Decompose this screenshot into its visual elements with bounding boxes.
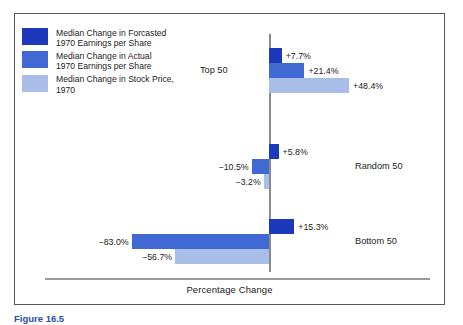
bar-value-label: −3.2%	[236, 177, 265, 187]
bar-row: −3.2%	[15, 174, 444, 189]
bar-median-change-in-a	[252, 159, 269, 174]
bar-row: +7.7%	[15, 48, 444, 63]
bar-median-change-in-s	[269, 78, 349, 93]
bar-row: +15.3%	[15, 219, 444, 234]
chart-plot-area: Median Change in Forcasted 1970 Earnings…	[15, 14, 444, 304]
bar-row: +5.8%	[15, 144, 444, 159]
bar-value-label: −56.7%	[142, 252, 176, 262]
figure-frame: Median Change in Forcasted 1970 Earnings…	[14, 13, 445, 305]
bar-value-label: −10.5%	[219, 162, 253, 172]
bar-group-bottom-50: +15.3%−83.0%−56.7%Bottom 50	[15, 219, 444, 264]
legend-swatch-forecasted-eps	[22, 28, 48, 45]
bar-group-random-50: +5.8%−10.5%−3.2%Random 50	[15, 144, 444, 189]
bar-median-change-in-s	[175, 249, 269, 264]
group-label-bottom-50: Bottom 50	[355, 236, 397, 246]
legend-label-forecasted-eps: Median Change in Forcasted 1970 Earnings…	[56, 27, 166, 48]
bar-median-change-in-a	[132, 234, 269, 249]
bar-median-change-in-f	[269, 144, 279, 159]
bar-value-label: −83.0%	[99, 237, 133, 247]
bar-row: −56.7%	[15, 249, 444, 264]
bar-row: +48.4%	[15, 78, 444, 93]
axis-divider	[45, 278, 430, 280]
bar-row: +21.4%	[15, 63, 444, 78]
bar-value-label: +15.3%	[294, 222, 328, 232]
bar-median-change-in-f	[269, 219, 294, 234]
bar-value-label: +21.4%	[304, 66, 338, 76]
bar-group-top-50: +7.7%+21.4%+48.4%Top 50	[15, 48, 444, 93]
bar-value-label: +48.4%	[349, 81, 383, 91]
group-label-random-50: Random 50	[355, 161, 403, 171]
legend-item-forecasted-eps: Median Change in Forcasted 1970 Earnings…	[22, 27, 174, 48]
figure-caption: Figure 16.5	[14, 313, 64, 324]
bar-median-change-in-a	[269, 63, 304, 78]
bar-value-label: +7.7%	[282, 51, 311, 61]
group-label-top-50: Top 50	[200, 65, 228, 75]
x-axis-title: Percentage Change	[15, 284, 444, 295]
bar-value-label: +5.8%	[279, 147, 308, 157]
bar-median-change-in-f	[269, 48, 282, 63]
